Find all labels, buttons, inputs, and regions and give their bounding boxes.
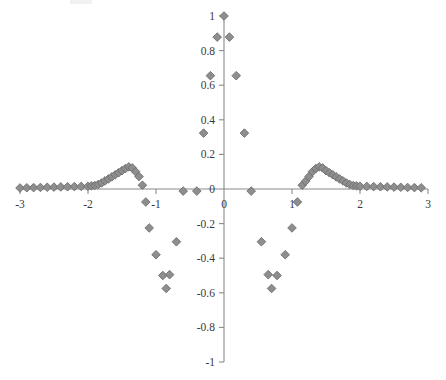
y-tick-label: 1 bbox=[209, 10, 215, 22]
y-tick-label: 0.8 bbox=[201, 45, 216, 57]
scatter-plot-figure: -3-2-10123 -1-0.8-0.6-0.4-0.200.20.40.60… bbox=[0, 0, 446, 380]
x-tick-label: 1 bbox=[289, 198, 295, 210]
x-tick-label: 0 bbox=[221, 198, 227, 210]
x-tick-label: -3 bbox=[15, 198, 25, 210]
plot-canvas: -3-2-10123 -1-0.8-0.6-0.4-0.200.20.40.60… bbox=[0, 0, 446, 380]
x-tick-label: 3 bbox=[425, 198, 431, 210]
x-tick-label: -1 bbox=[151, 198, 161, 210]
y-tick-label: -0.2 bbox=[197, 218, 215, 230]
y-tick-label: 0 bbox=[209, 183, 215, 195]
y-tick-label: -0.8 bbox=[197, 321, 215, 333]
x-tick-label: 2 bbox=[357, 198, 363, 210]
x-tick-label: -2 bbox=[83, 198, 93, 210]
y-tick-label: -1 bbox=[205, 356, 215, 368]
y-tick-label: 0.6 bbox=[201, 79, 216, 91]
y-tick-label: -0.4 bbox=[197, 252, 215, 264]
y-tick-label: 0.4 bbox=[201, 114, 216, 126]
y-tick-label: -0.6 bbox=[197, 287, 215, 299]
top-edge-artifact bbox=[70, 0, 92, 4]
y-tick-label: 0.2 bbox=[201, 148, 216, 160]
